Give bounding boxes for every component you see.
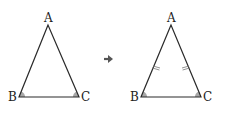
vertex-label-c: C [203,90,212,104]
triangle-outline [141,25,201,97]
left-triangle: A B C [8,11,90,104]
right-triangle: A B C [130,11,212,104]
isosceles-triangle-diagram: A B C A B C [0,0,225,117]
arrow-right-icon [104,55,113,63]
vertex-label-a: A [166,11,176,25]
vertex-label-c: C [81,90,90,104]
vertex-label-a: A [43,11,53,25]
triangle-outline [19,25,79,97]
vertex-label-b: B [130,90,139,104]
vertex-label-b: B [8,90,17,104]
